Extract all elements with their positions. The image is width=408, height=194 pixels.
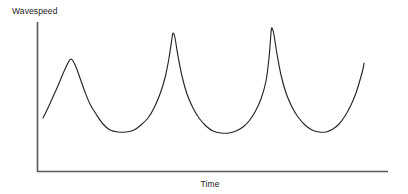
x-axis-label: Time bbox=[0, 179, 408, 189]
chart-plot-area bbox=[0, 0, 408, 194]
axes-group bbox=[37, 22, 388, 172]
chart-figure: Wavespeed Time bbox=[0, 0, 408, 194]
wavespeed-curve bbox=[43, 28, 364, 133]
